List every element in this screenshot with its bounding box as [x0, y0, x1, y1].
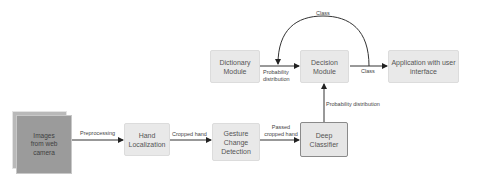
node-gesture-line-1: Gesture	[221, 129, 251, 138]
label-probability-distribution-vertical: Probability distribution	[326, 101, 380, 108]
node-dictionary-module: Dictionary Module	[210, 50, 260, 83]
node-deep-classifier-line-1: Deep	[310, 131, 339, 140]
label-passed-line-1: Passed	[260, 124, 302, 131]
node-gesture-change-detection: Gesture Change Detection	[212, 123, 260, 161]
node-gesture-line-3: Detection	[221, 147, 251, 156]
label-cropped-hand: Cropped hand	[172, 131, 207, 138]
node-hand-localization: Hand Localization	[124, 123, 170, 156]
node-application-with-user-interface: Application with user interface	[388, 50, 459, 83]
node-hand-localization-line-2: Localization	[129, 140, 166, 149]
node-gesture-line-2: Change	[221, 138, 251, 147]
node-images-line-3: camera	[31, 149, 58, 158]
node-deep-classifier-line-2: Classifier	[310, 140, 339, 149]
node-images-from-web-camera: Images from web camera	[16, 115, 72, 174]
node-application-line-2: interface	[391, 67, 455, 76]
label-probability-distribution-horizontal: Probability distribution	[263, 69, 290, 83]
label-prob-line-2: distribution	[263, 76, 290, 83]
label-preprocessing: Preprocessing	[80, 130, 115, 137]
label-prob-line-1: Probability	[263, 69, 290, 76]
node-decision-module: Decision Module	[300, 50, 349, 83]
node-application-line-1: Application with user	[391, 58, 455, 67]
node-images-line-1: Images	[31, 132, 58, 141]
label-passed-cropped-hand: Passed cropped hand	[260, 124, 302, 138]
label-class-feedback: Class	[316, 10, 330, 17]
node-decision-line-1: Decision	[311, 58, 338, 67]
pipeline-diagram: Images from web camera Hand Localization…	[0, 0, 479, 174]
label-class-output: Class	[361, 68, 375, 75]
node-dictionary-line-1: Dictionary	[219, 58, 250, 67]
node-hand-localization-line-1: Hand	[129, 131, 166, 140]
node-decision-line-2: Module	[311, 67, 338, 76]
node-dictionary-line-2: Module	[219, 67, 250, 76]
node-images-line-2: from web	[31, 140, 58, 149]
node-deep-classifier: Deep Classifier	[300, 122, 348, 157]
label-passed-line-2: cropped hand	[260, 131, 302, 138]
